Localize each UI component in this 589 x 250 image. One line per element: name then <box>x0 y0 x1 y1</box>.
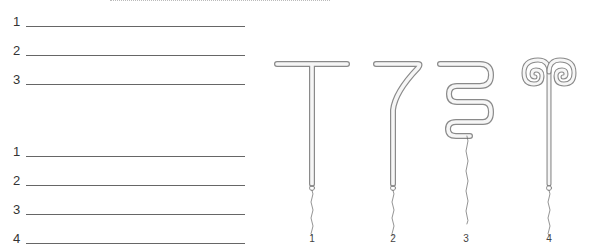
device-1-t-shape <box>277 64 347 236</box>
device-2-7-shape <box>376 64 420 236</box>
device-label-2: 2 <box>390 233 396 244</box>
device-figure <box>0 0 589 250</box>
device-label-4: 4 <box>546 233 552 244</box>
device-label-1: 1 <box>309 233 315 244</box>
device-3-s-coil <box>440 64 491 224</box>
device-label-3: 3 <box>463 233 469 244</box>
device-4-ram-horn <box>524 60 574 236</box>
